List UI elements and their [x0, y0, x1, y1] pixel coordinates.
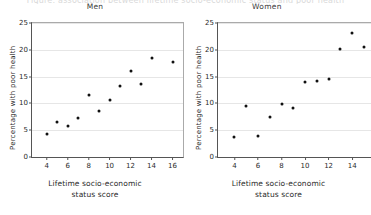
x-axis-label-men: Lifetime socio-economic status score [0, 178, 190, 200]
data-point [257, 135, 260, 138]
data-point [77, 117, 80, 120]
y-axis-label-women: Percentage with poor health [195, 46, 203, 150]
x-axis-label-men-line1: Lifetime socio-economic [0, 178, 190, 189]
data-point [140, 83, 143, 86]
x-tick-label: 4 [44, 157, 48, 170]
y-tick-label: 25 [19, 19, 32, 27]
figure-scatter-panels: Figure: association between lifetime soc… [0, 0, 371, 215]
data-point [304, 81, 307, 84]
data-point [98, 110, 101, 113]
gridline-y [32, 77, 183, 78]
data-point [233, 135, 236, 138]
x-axis-label-men-line2: status score [0, 189, 190, 200]
x-axis-label-women-line2: status score [186, 189, 371, 200]
plot-area-women: 0510152025468101214 [217, 22, 371, 158]
data-point [108, 99, 111, 102]
x-tick-label: 12 [126, 157, 135, 170]
data-point [66, 124, 69, 127]
gridline-y [218, 77, 371, 78]
x-axis-label-women-line1: Lifetime socio-economic [186, 178, 371, 189]
gridline-y [218, 50, 371, 51]
y-tick-label: 20 [205, 46, 218, 54]
x-tick-label: 6 [256, 157, 260, 170]
x-tick-label: 14 [147, 157, 156, 170]
data-point [245, 105, 248, 108]
x-tick-label: 12 [324, 157, 333, 170]
data-point [339, 48, 342, 51]
data-point [292, 107, 295, 110]
panel-women: Women Percentage with poor health 051015… [186, 0, 371, 215]
y-axis-label-men: Percentage with poor health [9, 46, 17, 150]
gridline-y [218, 130, 371, 131]
panel-title-men: Men [0, 2, 190, 11]
x-tick-label: 4 [232, 157, 236, 170]
data-point [268, 115, 271, 118]
data-point [45, 133, 48, 136]
y-tick-label: 15 [19, 73, 32, 81]
data-point [280, 102, 283, 105]
y-tick-label: 25 [205, 19, 218, 27]
panel-men: Men Percentage with poor health 05101520… [0, 0, 190, 215]
gridline-y [218, 23, 371, 24]
y-tick-label: 10 [205, 99, 218, 107]
data-point [315, 80, 318, 83]
x-tick-label: 14 [348, 157, 357, 170]
y-tick-label: 20 [19, 46, 32, 54]
data-point [351, 31, 354, 34]
data-point [119, 85, 122, 88]
gridline-y [32, 103, 183, 104]
x-axis-label-women: Lifetime socio-economic status score [186, 178, 371, 200]
data-point [327, 77, 330, 80]
x-tick-label: 8 [86, 157, 90, 170]
panel-title-women: Women [252, 2, 282, 11]
y-tick-label: 10 [19, 99, 32, 107]
y-tick-label: 0 [210, 153, 218, 161]
plot-area-men: 051015202546810121416 [31, 22, 184, 158]
data-point [129, 69, 132, 72]
y-tick-label: 0 [24, 153, 32, 161]
x-tick-label: 10 [105, 157, 114, 170]
data-point [150, 57, 153, 60]
x-tick-label: 6 [65, 157, 69, 170]
data-point [171, 60, 174, 63]
y-tick-label: 5 [210, 126, 218, 134]
y-tick-label: 5 [24, 126, 32, 134]
data-point [362, 46, 365, 49]
x-tick-label: 8 [279, 157, 283, 170]
gridline-y [218, 103, 371, 104]
gridline-y [32, 23, 183, 24]
y-tick-label: 15 [205, 73, 218, 81]
data-point [56, 120, 59, 123]
x-tick-label: 10 [301, 157, 310, 170]
x-tick-label: 16 [168, 157, 177, 170]
data-point [87, 94, 90, 97]
gridline-y [32, 50, 183, 51]
gridline-y [32, 130, 183, 131]
